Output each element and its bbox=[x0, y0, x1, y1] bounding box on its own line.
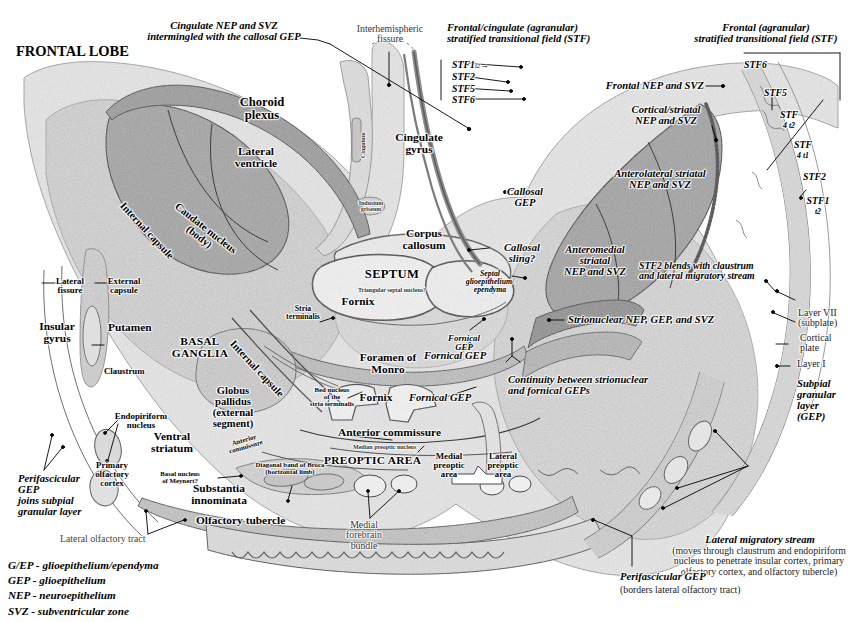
label-cingulum: Cingulum bbox=[360, 132, 366, 158]
label-layer-vii: Layer VII (subplate) bbox=[798, 308, 856, 329]
label-choroid-plexus: Choroid plexus bbox=[212, 96, 312, 122]
callout-perifascicular-left: Perifascicular GEP joins subpial granula… bbox=[18, 473, 122, 517]
label-interhemispheric-fissure: Interhemispheric fissure bbox=[344, 24, 436, 45]
label-ventral-striatum: Ventral striatum bbox=[140, 431, 204, 455]
label-insular-gyrus: Insular gyrus bbox=[28, 321, 86, 345]
callout-callosal-sling: Callosal sling? bbox=[493, 242, 551, 264]
label-external-capsule: External capsule bbox=[100, 277, 148, 295]
legend-item-svz: SVZ - subventricular zone bbox=[8, 604, 159, 619]
label-median-preoptic-nucleus: Median preoptic nucleus bbox=[353, 444, 416, 450]
callout-continuity: Continuity between strionuclear and forn… bbox=[508, 374, 664, 396]
figure-canvas: FRONTAL LOBE Cingulate NEP and SVZ inter… bbox=[0, 0, 859, 622]
label-stria-terminalis: Stria terminalis bbox=[278, 305, 328, 321]
callout-septal-gep: Septal glioepithelium/ ependyma bbox=[456, 270, 524, 295]
stf-left-1: STF1t2→ bbox=[452, 60, 489, 70]
legend-item-gep: GEP - glioepithelium bbox=[8, 573, 159, 588]
stf-right-3-sub: 4 t2 bbox=[783, 121, 795, 130]
stf-right-3: STF4 t2 bbox=[772, 110, 806, 131]
stf-right-6-label: STF1 bbox=[807, 195, 830, 206]
label-preoptic-area: PREOPTIC AREA bbox=[324, 455, 421, 467]
page-title: FRONTAL LOBE bbox=[16, 44, 129, 59]
callout-strionuclear: Strionuclear NEP, GEP, and SVZ bbox=[568, 314, 714, 325]
label-cingulate-gyrus: Cingulate gyrus bbox=[388, 132, 450, 156]
stf-left-1-label: STF1 bbox=[452, 59, 475, 70]
brain-section-illustration bbox=[0, 0, 859, 622]
stf-right-4-label: STF bbox=[794, 139, 812, 150]
label-lateral-ventricle: Lateral ventricle bbox=[210, 146, 302, 170]
callout-cingulate-nep-svz: Cingulate NEP and SVZ intermingled with … bbox=[134, 20, 314, 42]
label-endopiriform-nucleus: Endopiriform nucleus bbox=[110, 412, 172, 430]
label-anterior-commissure: Anterior commissure bbox=[338, 427, 441, 439]
callout-subpial-granular: Subpial granular layer (GEP) bbox=[797, 378, 855, 422]
label-layer-i: Layer I bbox=[797, 359, 826, 369]
label-fornix-septum: Fornix bbox=[330, 296, 386, 308]
legend-item-nep: NEP - neuroepithelium bbox=[8, 588, 159, 603]
stf-left-3: STF5 bbox=[452, 84, 475, 94]
label-lateral-preoptic-area: Lateral preoptic area bbox=[482, 452, 524, 480]
callout-cortical-striatal-nep-svz: Cortical/striatal NEP and SVZ bbox=[618, 104, 714, 126]
stf-right-2: STF5 bbox=[764, 88, 787, 98]
stf-right-4: STF4 t1 bbox=[786, 140, 820, 161]
label-putamen: Putamen bbox=[108, 322, 152, 334]
callout-frontal-nep-svz: Frontal NEP and SVZ bbox=[586, 80, 704, 91]
label-globus-pallidus: Globus pallidus (external segment) bbox=[202, 385, 264, 429]
label-substantia-innominata: Substantia innominata bbox=[176, 483, 262, 507]
stf-right-6-sub: t2 bbox=[815, 207, 821, 216]
callout-lateral-migratory-stream: Lateral migratory stream bbox=[666, 534, 854, 545]
stf-left-1-arrow: → bbox=[480, 60, 489, 70]
stf-left-4: STF6 bbox=[452, 95, 475, 105]
stf-right-6: STF1t2 bbox=[800, 196, 836, 217]
callout-anteromedial-striatal: Anteromedial striatal NEP and SVZ bbox=[552, 244, 638, 277]
label-basal-ganglia: BASAL GANGLIA bbox=[166, 336, 234, 360]
callout-fornical-gep-center: Fornical GEP bbox=[409, 392, 471, 403]
label-lateral-olfactory-tract: Lateral olfactory tract bbox=[60, 534, 145, 544]
stf-right-4-sub: 4 t1 bbox=[797, 151, 809, 160]
stf-right-1: STF6 bbox=[744, 60, 767, 70]
stf-left-2: STF2 bbox=[452, 72, 475, 82]
callout-stf2-blends: STF2 blends with claustrum and lateral m… bbox=[639, 261, 781, 282]
callout-frontal-cingulate-stf: Frontal/cingulate (agranular) stratified… bbox=[447, 22, 647, 44]
label-diagonal-band-broca: Diagonal band of Broca (horizontal limb) bbox=[248, 461, 332, 475]
callout-frontal-stf: Frontal (agranular) stratified transitio… bbox=[676, 22, 856, 44]
callout-perifascicular-bottom: Perifascicular GEP bbox=[620, 571, 706, 582]
abbreviation-legend: G/EP - glioepithelium/ependyma GEP - gli… bbox=[8, 558, 159, 619]
label-medial-preoptic-area: Medial preoptic area bbox=[428, 452, 470, 480]
label-medial-forebrain-bundle: Medial forebrain bundle bbox=[336, 520, 392, 551]
callout-fornical-gep-left: Fornical GEP bbox=[424, 350, 486, 361]
stf-right-3-label: STF bbox=[780, 109, 798, 120]
callout-callosal-gep: Callosal GEP bbox=[497, 186, 553, 208]
stf-right-5: STF2 bbox=[803, 172, 826, 182]
label-bed-nucleus-stria-terminalis: Bed nucleus of the stria terminalis bbox=[296, 386, 368, 407]
label-corpus-callosum: Corpus callosum bbox=[388, 228, 460, 252]
callout-perifascicular-bottom-sub: (borders lateral olfactory tract) bbox=[620, 585, 741, 595]
label-claustrum: Claustrum bbox=[104, 367, 145, 376]
label-triangular-septal-nucleus: Triangular septal nucleus? bbox=[336, 287, 448, 293]
label-indusium-griseum: Indusium griseum bbox=[354, 200, 388, 213]
label-septum: SEPTUM bbox=[350, 268, 434, 281]
label-olfactory-tubercle: Olfactory tubercle bbox=[196, 515, 285, 527]
label-cortical-plate: Cortical plate bbox=[800, 333, 852, 354]
callout-anterolateral-striatal: Anterolateral striatal NEP and SVZ bbox=[598, 168, 722, 190]
label-lateral-fissure: Lateral fissure bbox=[48, 277, 92, 295]
label-foramen-of-monro: Foramen of Monro bbox=[342, 352, 434, 376]
legend-item-gep-ependyma: G/EP - glioepithelium/ependyma bbox=[8, 558, 159, 573]
